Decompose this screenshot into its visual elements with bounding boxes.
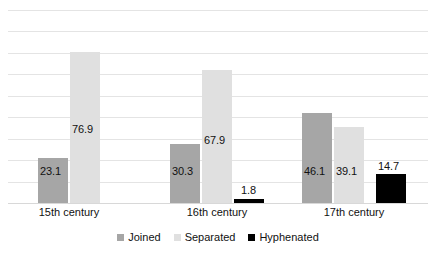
category-label-16th: 16th century [157,206,277,218]
legend-swatch-icon-hyphenated [248,234,255,241]
legend-label-joined: Joined [128,231,160,243]
legend-swatch-icon-separated [174,234,181,241]
legend-item-joined[interactable]: Joined [117,231,160,243]
bar-label-separated-16th: 67.9 [204,134,225,146]
plot-area: 23.1 76.9 30.3 67.9 1.8 46.1 39.1 14.7 [8,10,428,203]
bar-label-hyphenated-17th: 14.7 [378,160,399,172]
bar-chart: 23.1 76.9 30.3 67.9 1.8 46.1 39.1 14.7 1… [0,0,436,257]
bar-label-separated-17th: 39.1 [336,165,357,177]
bar-label-joined-17th: 46.1 [304,165,325,177]
bar-label-joined-15th: 23.1 [40,165,61,177]
legend-label-hyphenated: Hyphenated [259,231,318,243]
bar-hyphenated-17th[interactable] [376,174,406,203]
bar-label-joined-16th: 30.3 [172,165,193,177]
category-axis: 15th century 16th century 17th century [8,206,428,224]
legend-item-hyphenated[interactable]: Hyphenated [248,231,318,243]
chart-legend: Joined Separated Hyphenated [0,231,436,243]
legend-swatch-icon-joined [117,234,124,241]
gridline-0 [8,203,428,204]
legend-label-separated: Separated [185,231,236,243]
bar-joined-17th[interactable] [302,113,332,203]
category-label-17th: 17th century [294,206,414,218]
bar-hyphenated-16th[interactable] [234,199,264,203]
bar-label-hyphenated-16th: 1.8 [241,184,256,196]
bar-label-separated-15th: 76.9 [72,123,93,135]
category-label-15th: 15th century [9,206,129,218]
bars-layer: 23.1 76.9 30.3 67.9 1.8 46.1 39.1 14.7 [8,10,428,203]
legend-item-separated[interactable]: Separated [174,231,236,243]
